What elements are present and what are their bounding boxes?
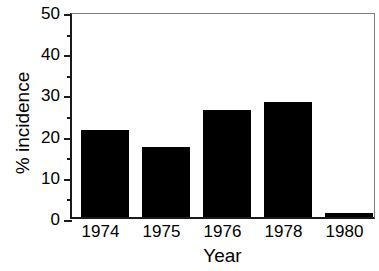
- y-tick-mark-minor: [67, 199, 72, 201]
- y-tick-mark-major: [64, 138, 72, 140]
- y-tick-mark-minor: [67, 117, 72, 119]
- bar-1976: [203, 110, 251, 217]
- y-tick-label: 40: [41, 45, 60, 65]
- y-tick-mark-minor: [67, 35, 72, 37]
- x-tick-label-1978: 1978: [253, 222, 314, 242]
- y-tick-label: 0: [51, 210, 60, 230]
- bar-1980: [325, 213, 373, 217]
- y-tick-mark-minor: [67, 76, 72, 78]
- y-tick-label: 30: [41, 86, 60, 106]
- x-tick-label-1976: 1976: [192, 222, 253, 242]
- y-tick-mark-minor: [67, 158, 72, 160]
- bar-1975: [142, 147, 190, 217]
- y-tick-mark-major: [64, 14, 72, 16]
- y-axis-title: % incidence: [12, 23, 34, 223]
- x-tick-label-1980: 1980: [314, 222, 375, 242]
- y-tick-mark-major: [64, 55, 72, 57]
- x-axis-title: Year: [70, 245, 375, 267]
- x-tick-label-1975: 1975: [131, 222, 192, 242]
- y-tick-label: 20: [41, 128, 60, 148]
- x-tick-label-1974: 1974: [70, 222, 131, 242]
- bar-1974: [81, 130, 129, 217]
- y-tick-mark-major: [64, 179, 72, 181]
- bar-1978: [264, 102, 312, 217]
- y-tick-label: 10: [41, 169, 60, 189]
- bar-chart-figure: % incidence 01020304050 1974197519761978…: [0, 0, 379, 271]
- plot-area: 01020304050: [70, 13, 375, 219]
- y-tick-mark-major: [64, 96, 72, 98]
- y-tick-label: 50: [41, 4, 60, 24]
